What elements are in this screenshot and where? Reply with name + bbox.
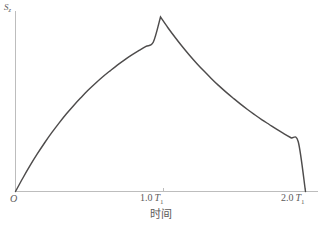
x-axis-title: 时间 <box>0 209 322 220</box>
x-tick-label-2-subscript: 1 <box>301 198 305 206</box>
x-tick-label-2: 2.0T1 <box>281 193 305 206</box>
x-tick-label-1: 1.0T1 <box>140 193 164 206</box>
x-tick-label-1-value: 1.0 <box>140 192 153 203</box>
y-axis-label: Sz <box>4 3 11 14</box>
x-tick-label-2-symbol: T1 <box>296 192 305 203</box>
x-tick-label-1-symbol: T1 <box>155 192 164 203</box>
x-tick-label-2-value: 2.0 <box>281 192 294 203</box>
chart-figure: Sz O 1.0T1 2.0T1 时间 <box>0 0 322 230</box>
signal-curve <box>16 17 306 192</box>
x-tick-label-1-subscript: 1 <box>160 198 164 206</box>
origin-label: O <box>10 194 17 204</box>
y-axis-subscript: z <box>9 6 12 13</box>
